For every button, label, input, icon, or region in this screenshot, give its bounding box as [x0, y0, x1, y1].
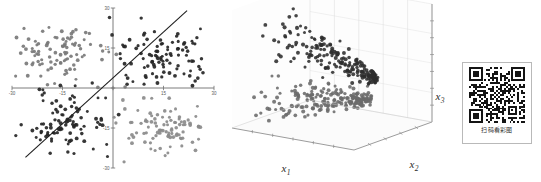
qr-code-panel[interactable]: 扫码看彩图 [462, 62, 532, 144]
svg-text:x2: x2 [408, 158, 418, 173]
pane-group-3d [232, 0, 432, 150]
qr-code-image[interactable] [469, 67, 525, 123]
svg-text:-15: -15 [59, 91, 66, 96]
svg-text:-30: -30 [9, 91, 16, 96]
scatter-2d-panel: -30-151530-30-151530 [0, 0, 232, 182]
svg-text:x1: x1 [280, 162, 290, 177]
svg-text:30: 30 [211, 91, 217, 96]
scatter-3d-svg: x1x2x3 [228, 0, 460, 182]
qr-code-box[interactable]: 扫码看彩图 [462, 62, 532, 144]
axis-label-x1: x1 [280, 162, 290, 177]
svg-text:-15: -15 [103, 126, 110, 131]
decision-boundary-line [25, 11, 187, 158]
scatter-3d-panel: x1x2x3 [228, 0, 460, 182]
svg-text:30: 30 [104, 6, 110, 11]
svg-text:-30: -30 [103, 166, 110, 171]
figure-root: -30-151530-30-151530 x1x2x3 扫码看彩图 [0, 0, 541, 182]
axis-label-x2: x2 [408, 158, 418, 173]
axis-label-x3: x3 [434, 90, 444, 105]
svg-text:15: 15 [161, 91, 167, 96]
qr-caption-text: 扫码看彩图 [481, 126, 513, 134]
svg-text:15: 15 [104, 46, 110, 51]
svg-text:x3: x3 [434, 90, 444, 105]
scatter-2d-svg: -30-151530-30-151530 [0, 0, 232, 182]
